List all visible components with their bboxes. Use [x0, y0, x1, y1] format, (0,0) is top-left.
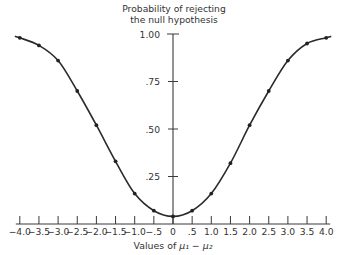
data-point-marker [56, 59, 60, 63]
y-tick-label: .25 [145, 171, 160, 182]
data-point-marker [18, 36, 22, 40]
y-tick-label: 1.00 [140, 29, 161, 40]
x-tick-label: −.5 [146, 226, 163, 237]
x-tick-label: 3.5 [300, 226, 315, 237]
y-tick-label: .75 [145, 76, 160, 87]
power-curve-chart: Probability of rejecting the null hypoth… [0, 0, 338, 255]
data-point-marker [133, 192, 137, 196]
x-tick-label: 4.0 [319, 226, 334, 237]
data-point-marker [248, 123, 252, 127]
data-point-marker [171, 215, 175, 219]
data-point-marker [305, 42, 309, 46]
data-point-marker [190, 209, 194, 213]
data-point-marker [229, 161, 233, 165]
y-tick-label: .50 [145, 124, 160, 135]
data-point-marker [267, 89, 271, 93]
data-point-marker [37, 44, 41, 48]
data-point-marker [209, 192, 213, 196]
data-point-marker [152, 209, 156, 213]
x-tick-label: −1.0 [124, 226, 146, 237]
x-tick-label: 2.0 [242, 226, 257, 237]
data-point-marker [114, 159, 118, 163]
x-tick-label: 0 [170, 226, 176, 237]
x-axis-label-math: μ₁ − μ₂ [179, 240, 212, 251]
x-axis-label-text: Values of [134, 240, 180, 251]
data-point-marker [95, 123, 99, 127]
x-tick-label: 1.5 [223, 226, 238, 237]
x-tick-label: .5 [188, 226, 197, 237]
x-tick-label: 2.5 [261, 226, 276, 237]
x-axis-label: Values of μ₁ − μ₂ [0, 240, 338, 251]
data-point-marker [75, 89, 79, 93]
data-point-marker [286, 59, 290, 63]
data-point-marker [324, 36, 328, 40]
plot-area: −4.0−3.5−3.0−2.5−2.0−1.5−1.0−.50.51.01.5… [0, 0, 338, 255]
x-tick-label: 3.0 [281, 226, 296, 237]
x-tick-label: 1.0 [204, 226, 219, 237]
